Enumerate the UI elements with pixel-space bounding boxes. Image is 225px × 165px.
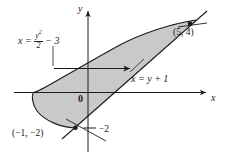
point-dot-upper	[188, 21, 193, 26]
parabola-exponent: 2	[39, 29, 42, 35]
parabola-constant: − 3	[45, 35, 59, 46]
parabola-fraction: y2 2	[34, 32, 43, 50]
origin-label: 0	[78, 93, 83, 104]
parabola-lhs: x	[18, 35, 22, 46]
parabola-denominator: 2	[34, 42, 43, 50]
x-axis-label: x	[211, 92, 215, 103]
point-label-lower: (−1, −2)	[12, 128, 43, 138]
point-label-upper: (5, 4)	[173, 27, 194, 37]
tick-label-neg2: −2	[99, 124, 109, 134]
parabola-numerator: y2	[34, 32, 43, 40]
graph-figure	[0, 0, 225, 165]
point-dot-lower	[73, 126, 78, 131]
line-equation-label: x = y + 1	[131, 73, 168, 84]
parabola-equation-label: x = y2 2 − 3	[18, 32, 60, 50]
y-axis-label: y	[78, 3, 82, 14]
parabola-equals: =	[25, 35, 32, 46]
